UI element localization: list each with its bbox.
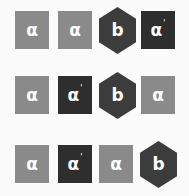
tile-alpha: α bbox=[141, 76, 175, 114]
tile-label: b bbox=[111, 85, 123, 105]
tile-alpha-prime: α' bbox=[58, 76, 92, 114]
tile-label: α bbox=[69, 20, 81, 40]
row-1: α α b α' bbox=[0, 11, 189, 61]
tile-alpha: α bbox=[58, 11, 92, 49]
tile-alpha-prime: α' bbox=[58, 145, 92, 183]
tile-b-hexagon: b bbox=[99, 7, 136, 54]
prime-mark: ' bbox=[80, 84, 82, 93]
tile-alpha: α bbox=[15, 11, 49, 49]
tile-b-hexagon: b bbox=[140, 141, 177, 188]
tile-alpha-prime: α' bbox=[141, 11, 175, 49]
tile-label: b bbox=[152, 154, 164, 174]
tile-b-hexagon: b bbox=[99, 72, 136, 119]
row-2: α α' b α bbox=[0, 76, 189, 126]
tile-label: α bbox=[151, 20, 163, 40]
tile-label: α bbox=[110, 154, 122, 174]
tile-label: α bbox=[26, 85, 38, 105]
tile-alpha: α bbox=[15, 145, 49, 183]
tile-alpha: α bbox=[15, 76, 49, 114]
prime-mark: ' bbox=[163, 19, 165, 28]
tile-label: α bbox=[68, 154, 80, 174]
tile-label: α bbox=[26, 154, 38, 174]
tile-alpha: α bbox=[99, 145, 133, 183]
tile-label: b bbox=[111, 20, 123, 40]
prime-mark: ' bbox=[80, 153, 82, 162]
tile-label: α bbox=[26, 20, 38, 40]
row-3: α α' α b bbox=[0, 145, 189, 195]
tile-label: α bbox=[68, 85, 80, 105]
tile-label: α bbox=[152, 85, 164, 105]
